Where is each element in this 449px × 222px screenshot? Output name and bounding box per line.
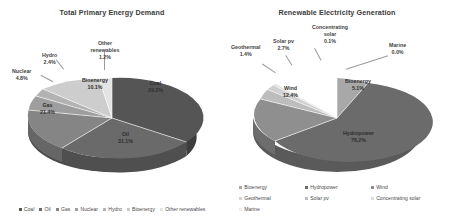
legend-label: Marine (244, 206, 260, 212)
legend-swatch-icon (239, 208, 242, 211)
legend-swatch-icon (39, 208, 42, 211)
legend-swatch-icon (305, 197, 308, 200)
slice-label-oil: Oil 31.1% (118, 131, 133, 145)
slice-label-geothermal: Geothermal 1.4% (231, 44, 260, 58)
legend-item[interactable]: Other renewables (160, 206, 205, 212)
legend-item[interactable]: Wind (371, 184, 388, 190)
legend-item[interactable]: Nuclear (75, 206, 98, 212)
legend-item[interactable]: Marine (239, 206, 260, 212)
legend-swatch-icon (371, 186, 374, 189)
legend-swatch-icon (239, 186, 242, 189)
legend-label: Nuclear (80, 206, 98, 212)
legend-item[interactable]: Concentrating solar (371, 195, 420, 201)
legend-label: Oil (45, 206, 51, 212)
legend-item[interactable]: Coal (19, 206, 35, 212)
legend-swatch-icon (56, 208, 59, 211)
legend-energy-demand: Coal Oil Gas Nuclear Hydro Bioenergy Oth… (0, 206, 224, 212)
legend-item[interactable]: Bioenergy (239, 184, 267, 190)
slice-label-nuclear: Nuclear 4.8% (12, 68, 31, 82)
slice-label-gas: Gas 21.4% (40, 102, 55, 116)
legend-swatch-icon (371, 197, 374, 200)
legend-item[interactable]: Hydro (103, 206, 122, 212)
legend-label: Gas (61, 206, 70, 212)
legend-swatch-icon (239, 197, 242, 200)
legend-item[interactable]: Solar pv (305, 195, 329, 201)
legend-item[interactable]: Gas (56, 206, 71, 212)
legend-label: Hydro (108, 206, 122, 212)
legend-swatch-icon (103, 208, 106, 211)
slice-label-other-renewables: Other renewables 1.2% (84, 40, 126, 60)
page-title-energy-demand: Total Primary Energy Demand (0, 8, 224, 17)
legend-item[interactable]: Geothermal (239, 195, 271, 201)
slice-label-hydropower: Hydropower 78.2% (343, 130, 374, 144)
page-title-renewable-generation: Renewable Electricity Generation (225, 8, 449, 17)
legend-label: Bioenergy (132, 206, 155, 212)
legend-label: Concentrating solar (376, 195, 420, 201)
slice-label-coal: Coal 29.2% (148, 80, 163, 94)
legend-label: Solar pv (310, 195, 329, 201)
chart-panel-energy-demand: Total Primary Energy Demand (0, 0, 224, 222)
legend-label: Hydropower (310, 184, 337, 190)
legend-label: Coal (24, 206, 34, 212)
slice-label-marine: Marine 0.0% (389, 42, 406, 56)
legend-swatch-icon (19, 208, 22, 211)
legend-swatch-icon (127, 208, 130, 211)
legend-item[interactable]: Oil (39, 206, 50, 212)
legend-swatch-icon (305, 186, 308, 189)
legend-item[interactable]: Bioenergy (127, 206, 155, 212)
legend-label: Bioenergy (244, 184, 267, 190)
slice-label-wind: Wind 12.4% (283, 85, 298, 99)
legend-label: Other renewables (165, 206, 205, 212)
legend-swatch-icon (75, 208, 78, 211)
legend-item[interactable]: Hydropower (305, 184, 338, 190)
slice-label-concentrating-solar: Concentrating solar 0.1% (309, 24, 351, 44)
slice-label-bioenergy: Bioenergy 10.1% (82, 77, 108, 91)
slice-label-solar-pv: Solar pv 2.7% (273, 38, 294, 52)
legend-swatch-icon (160, 208, 163, 211)
slice-label-bioenergy: Bioenergy 5.1% (345, 78, 371, 92)
legend-label: Wind (376, 184, 388, 190)
legend-label: Geothermal (244, 195, 271, 201)
legend-renewable-generation: Bioenergy Hydropower Wind Geothermal Sol… (225, 184, 449, 212)
chart-panel-renewable-generation: Renewable Electricity Generation (225, 0, 449, 222)
slice-label-hydro: Hydro 2.4% (42, 52, 57, 66)
